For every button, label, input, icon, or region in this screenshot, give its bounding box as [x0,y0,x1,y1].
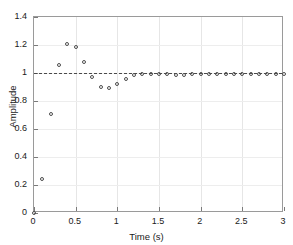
y-axis-tick [34,129,38,130]
data-point-marker [282,72,286,76]
data-point-marker [40,177,44,181]
y-axis-tick [34,45,38,46]
x-axis-tick [76,207,77,211]
data-point-marker [265,72,269,76]
x-axis-tick [284,207,285,211]
x-axis-tick [117,207,118,211]
data-point-marker [174,73,178,77]
gridline-vertical [201,17,202,211]
data-point-marker [274,72,278,76]
y-axis-tick-label: 0.6 [0,123,27,133]
data-point-marker [232,72,236,76]
y-axis-tick-label: 0 [0,207,27,217]
x-axis-tick-label: 2.5 [235,216,248,226]
x-axis-tick [242,207,243,211]
gridline-horizontal [34,101,282,102]
plot-area [33,16,283,212]
gridline-horizontal [34,185,282,186]
y-axis-tick-label: 0.8 [0,95,27,105]
y-axis-tick-label: 1.2 [0,39,27,49]
y-axis-tick-label: 1 [0,67,27,77]
data-point-marker [90,75,94,79]
gridline-vertical [242,17,243,211]
data-point-marker [249,72,253,76]
data-point-marker [132,73,136,77]
x-axis-tick-label: 3 [280,216,285,226]
data-point-marker [224,72,228,76]
y-axis-label: Amplitude [7,67,18,147]
y-axis-tick [34,101,38,102]
y-axis-tick-label: 1.4 [0,11,27,21]
data-point-marker [57,63,61,67]
data-point-marker [74,45,78,49]
data-point-marker [124,77,128,81]
figure-canvas: Time (s) Amplitude 00.511.522.5300.20.40… [0,0,293,245]
x-axis-tick [159,207,160,211]
data-point-marker [65,42,69,46]
gridline-vertical [117,17,118,211]
y-axis-tick [34,17,38,18]
gridline-horizontal [34,129,282,130]
data-point-marker [157,72,161,76]
x-axis-tick [201,207,202,211]
data-point-marker [257,72,261,76]
data-point-marker [82,60,86,64]
data-point-marker [140,72,144,76]
data-point-marker [207,72,211,76]
x-axis-tick-label: 1 [114,216,119,226]
x-axis-tick-label: 1.5 [152,216,165,226]
y-axis-tick-label: 0.2 [0,179,27,189]
gridline-horizontal [34,45,282,46]
y-axis-tick [34,185,38,186]
y-axis-tick-label: 0.4 [0,151,27,161]
x-axis-label: Time (s) [0,231,293,242]
data-point-marker [199,72,203,76]
x-axis-tick-label: 0.5 [68,216,81,226]
x-axis-tick-label: 0 [30,216,35,226]
data-point-marker [32,211,36,215]
data-point-marker [107,86,111,90]
data-point-marker [190,72,194,76]
data-point-marker [99,85,103,89]
data-point-marker [165,72,169,76]
data-point-marker [49,112,53,116]
gridline-vertical [159,17,160,211]
data-point-marker [215,72,219,76]
data-point-marker [182,73,186,77]
data-point-marker [149,72,153,76]
gridline-horizontal [34,157,282,158]
x-axis-tick-label: 2 [197,216,202,226]
data-point-marker [240,72,244,76]
data-point-marker [115,82,119,86]
y-axis-tick [34,157,38,158]
